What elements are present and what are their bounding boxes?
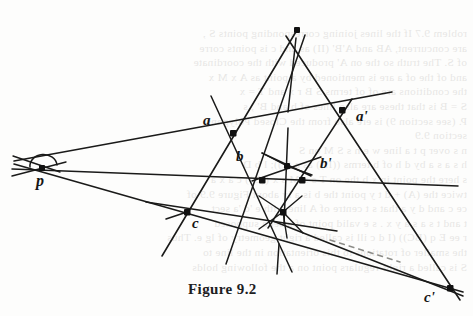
point-label-a: a bbox=[203, 112, 211, 129]
point-label-p: p bbox=[36, 172, 44, 190]
figure-container: roblem 9.7 If the lines joining correspo… bbox=[0, 0, 473, 316]
line-a-prime-to-mid-lower bbox=[268, 99, 352, 228]
node-dot-b-prime bbox=[299, 177, 306, 184]
line-vertical-axis-upper bbox=[288, 38, 296, 112]
line-vertical-axis-lower-dash bbox=[277, 244, 279, 274]
node-dot-mid-lower bbox=[280, 209, 287, 216]
node-dot-apex-top bbox=[294, 27, 300, 33]
point-label-c: c bbox=[192, 215, 199, 232]
node-dot-c bbox=[184, 209, 191, 216]
node-dot-c-prime bbox=[447, 285, 454, 292]
node-dot-p bbox=[39, 165, 45, 171]
point-label-b: b bbox=[236, 148, 244, 165]
line-mid-upper-ray-left bbox=[262, 153, 287, 166]
line-p-to-b-prime bbox=[12, 169, 458, 186]
node-dot-a bbox=[230, 130, 237, 137]
node-dot-b bbox=[259, 177, 266, 184]
figure-caption: Figure 9.2 bbox=[188, 281, 257, 298]
node-dot-a-prime bbox=[339, 107, 346, 114]
node-dot-mid-upper bbox=[284, 163, 290, 169]
point-label-c-prime: c' bbox=[424, 289, 435, 306]
point-label-b-prime: b' bbox=[320, 155, 332, 172]
point-label-a-prime: a' bbox=[356, 108, 368, 125]
line-faded-segment bbox=[330, 240, 400, 262]
line-a-b-extended bbox=[211, 96, 292, 272]
